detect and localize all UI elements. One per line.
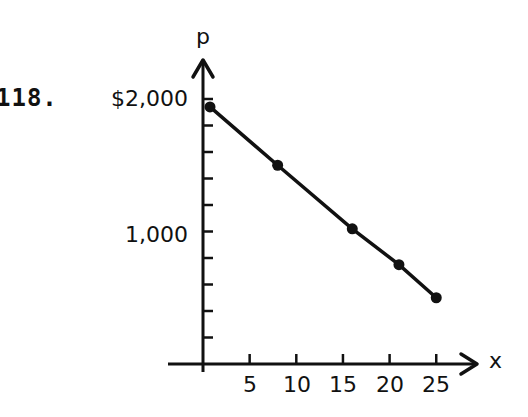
chart-canvas [0, 0, 528, 417]
data-point [431, 292, 442, 303]
data-point [204, 101, 215, 112]
data-line [210, 107, 436, 298]
data-point [347, 223, 358, 234]
data-point [272, 160, 283, 171]
data-point [393, 259, 404, 270]
x-axis [168, 354, 477, 374]
